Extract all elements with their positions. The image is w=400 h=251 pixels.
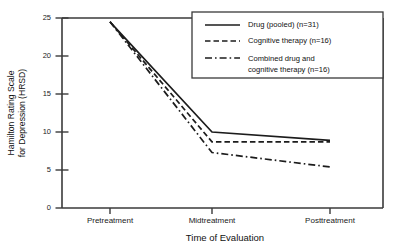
x-axis-title: Time of Evaluation xyxy=(186,232,264,243)
legend: Drug (pooled) (n=31) Cognitive therapy (… xyxy=(192,12,383,78)
legend-label-combined-line2: cognitive therapy (n=16) xyxy=(248,65,330,74)
legend-label-drug-pooled: Drug (pooled) (n=31) xyxy=(248,20,319,29)
ytick-label-10: 10 xyxy=(43,127,51,136)
chart-figure: 25 20 15 10 5 0 Pretreatment Midtreatmen… xyxy=(0,0,400,251)
xtick-label-posttreatment: Posttreatment xyxy=(305,216,356,225)
ytick-label-15: 15 xyxy=(43,89,51,98)
ytick-label-20: 20 xyxy=(43,51,51,60)
y-axis-title: Hamilton Rating Scale for Depression (HR… xyxy=(6,69,27,157)
ytick-label-25: 25 xyxy=(43,13,51,22)
y-axis-title-line2: for Depression (HRSD) xyxy=(17,69,27,157)
legend-label-cognitive-therapy: Cognitive therapy (n=16) xyxy=(248,36,332,45)
xtick-label-midtreatment: Midtreatment xyxy=(189,216,236,225)
xtick-label-pretreatment: Pretreatment xyxy=(87,216,134,225)
chart-svg: 25 20 15 10 5 0 Pretreatment Midtreatmen… xyxy=(0,0,400,251)
legend-label-combined-line1: Combined drug and xyxy=(248,54,315,63)
ytick-label-0: 0 xyxy=(47,203,51,212)
ytick-label-5: 5 xyxy=(47,165,51,174)
y-axis-title-line1: Hamilton Rating Scale xyxy=(6,70,16,155)
x-axis-tick-labels: Pretreatment Midtreatment Posttreatment xyxy=(87,216,356,225)
